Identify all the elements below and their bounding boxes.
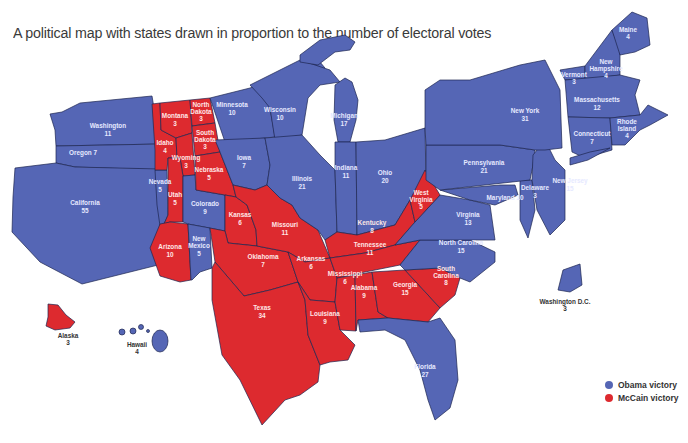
svg-text:Maryland 10: Maryland 10: [487, 194, 524, 202]
svg-text:Florida: Florida: [414, 363, 436, 370]
state-alaska[interactable]: [46, 304, 75, 330]
svg-text:Utah: Utah: [168, 191, 182, 198]
svg-text:Illinois: Illinois: [292, 175, 313, 182]
svg-text:4: 4: [626, 33, 630, 40]
svg-text:3: 3: [563, 305, 567, 312]
svg-text:California: California: [70, 199, 100, 206]
svg-text:South: South: [437, 265, 455, 272]
legend-label: McCain victory: [618, 393, 678, 403]
svg-text:Rhode: Rhode: [617, 118, 637, 125]
svg-text:Kansas: Kansas: [229, 211, 252, 218]
svg-text:4: 4: [625, 132, 629, 139]
svg-text:Minnesota: Minnesota: [216, 101, 248, 108]
svg-text:4: 4: [604, 72, 608, 79]
svg-text:Mexico: Mexico: [188, 242, 210, 249]
svg-text:5: 5: [197, 250, 201, 257]
svg-text:8: 8: [370, 227, 374, 234]
svg-text:15: 15: [401, 289, 409, 296]
state-maine[interactable]: [612, 12, 650, 55]
blue-dot-icon: [605, 381, 613, 389]
svg-text:Vermont: Vermont: [561, 71, 587, 78]
svg-text:Mississippi: Mississippi: [328, 270, 363, 278]
svg-text:Arkansas: Arkansas: [297, 255, 326, 262]
svg-text:3: 3: [66, 339, 70, 346]
svg-text:North: North: [192, 101, 209, 108]
svg-text:3: 3: [533, 192, 537, 199]
svg-text:12: 12: [593, 104, 601, 111]
svg-text:Washington: Washington: [90, 122, 126, 130]
svg-text:6: 6: [309, 263, 313, 270]
state-michigan[interactable]: [300, 35, 355, 65]
svg-text:South: South: [196, 129, 214, 136]
state-california[interactable]: [12, 163, 162, 284]
svg-text:6: 6: [238, 219, 242, 226]
svg-text:Tennessee: Tennessee: [354, 241, 387, 248]
svg-text:Wisconsin: Wisconsin: [264, 106, 296, 113]
svg-text:9: 9: [362, 292, 366, 299]
state-michigan-lower[interactable]: [334, 78, 358, 142]
svg-text:7: 7: [242, 162, 246, 169]
svg-text:3: 3: [572, 78, 576, 85]
state-florida[interactable]: [358, 318, 458, 420]
electoral-map: Washington11 Oregon 7 California55 Nevad…: [0, 0, 688, 443]
svg-text:9: 9: [323, 318, 327, 325]
svg-text:13: 13: [464, 219, 472, 226]
svg-text:Idaho: Idaho: [156, 139, 173, 146]
svg-text:10: 10: [276, 114, 284, 121]
legend-item-mccain: McCain victory: [605, 391, 678, 404]
svg-text:Arizona: Arizona: [158, 243, 182, 250]
svg-text:15: 15: [566, 185, 574, 192]
svg-text:Texas: Texas: [253, 304, 271, 311]
svg-text:55: 55: [81, 207, 89, 214]
svg-text:3: 3: [173, 120, 177, 127]
svg-text:Iowa: Iowa: [237, 154, 252, 161]
svg-text:Nevada: Nevada: [149, 178, 172, 185]
svg-text:4: 4: [135, 348, 139, 355]
svg-text:Massachusetts: Massachusetts: [574, 96, 620, 103]
svg-text:Alabama: Alabama: [351, 284, 378, 291]
svg-text:8: 8: [444, 279, 448, 286]
svg-text:6: 6: [343, 278, 347, 285]
legend-item-obama: Obama victory: [605, 378, 678, 391]
svg-text:7: 7: [590, 138, 594, 145]
state-washington[interactable]: [50, 96, 160, 146]
svg-text:Indiana: Indiana: [335, 164, 358, 171]
svg-text:Kentucky: Kentucky: [358, 219, 387, 227]
svg-text:Maine: Maine: [619, 26, 638, 33]
svg-text:Pennsylvania: Pennsylvania: [464, 159, 505, 167]
svg-text:5: 5: [173, 199, 177, 206]
svg-text:Colorado: Colorado: [191, 200, 219, 207]
svg-text:17: 17: [340, 120, 348, 127]
svg-text:Island: Island: [618, 125, 637, 132]
svg-text:Oregon 7: Oregon 7: [69, 149, 97, 157]
svg-text:New: New: [599, 58, 612, 65]
svg-text:31: 31: [521, 115, 529, 122]
svg-text:Wyoming: Wyoming: [172, 154, 201, 162]
svg-text:5: 5: [158, 186, 162, 193]
svg-text:New Jersey: New Jersey: [552, 177, 588, 185]
red-dot-icon: [605, 394, 613, 402]
svg-text:Missouri: Missouri: [272, 221, 299, 228]
legend-label: Obama victory: [618, 380, 677, 390]
svg-text:Dakota: Dakota: [194, 136, 216, 143]
svg-text:Carolina: Carolina: [433, 272, 459, 279]
svg-text:Dakota: Dakota: [190, 108, 212, 115]
svg-text:3: 3: [203, 143, 207, 150]
state-new-york[interactable]: [425, 60, 562, 150]
svg-text:11: 11: [105, 130, 112, 137]
state-indiana[interactable]: [335, 142, 357, 235]
state-montana[interactable]: [160, 100, 192, 138]
svg-text:11: 11: [282, 229, 289, 236]
state-dc[interactable]: [558, 264, 582, 292]
legend: Obama victory McCain victory: [605, 378, 678, 404]
svg-text:21: 21: [480, 167, 488, 174]
svg-text:Oklahoma: Oklahoma: [248, 253, 279, 260]
svg-text:9: 9: [203, 208, 207, 215]
svg-text:7: 7: [261, 261, 265, 268]
svg-text:11: 11: [367, 249, 374, 256]
svg-text:West: West: [413, 189, 429, 196]
svg-text:3: 3: [184, 162, 188, 169]
svg-text:27: 27: [421, 371, 429, 378]
svg-text:15: 15: [457, 247, 465, 254]
svg-text:20: 20: [381, 177, 389, 184]
